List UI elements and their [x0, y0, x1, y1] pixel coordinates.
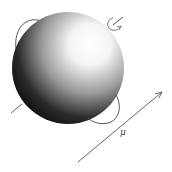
- rotation-axis-lower: [11, 104, 22, 113]
- spinning-sphere-diagram: [0, 0, 172, 172]
- rotation-axis-upper: [113, 17, 123, 25]
- sphere: [12, 12, 124, 124]
- moment-label: μ: [120, 127, 126, 137]
